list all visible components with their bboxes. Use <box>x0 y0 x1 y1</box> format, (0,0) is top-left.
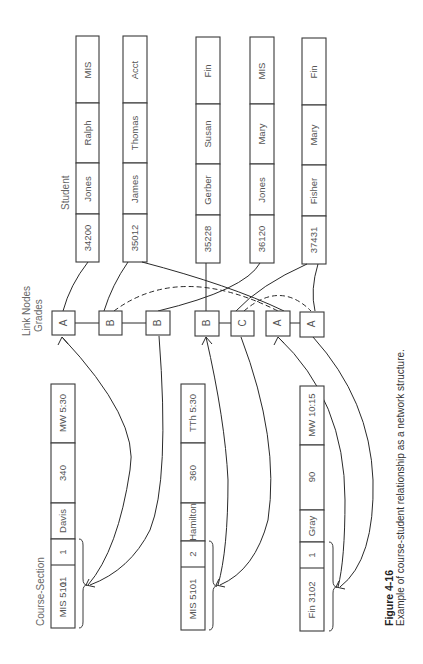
course-room: 90 <box>306 472 317 483</box>
student-record: MIS Ralph Jones 34200 <box>76 36 99 262</box>
student-link-connectors <box>63 262 318 311</box>
student-id: 35012 <box>129 225 140 251</box>
course-section-label: Course-Section <box>35 557 46 626</box>
course-bracket <box>209 541 217 630</box>
link-node: A <box>300 312 324 337</box>
arrowhead-icon <box>58 337 68 345</box>
student-id: 37431 <box>308 227 319 253</box>
grade-value: B <box>201 319 212 326</box>
network-structure-diagram: Student Link Nodes Grades Course-Section… <box>0 0 423 664</box>
course-link-curves <box>62 336 373 587</box>
course-code: Fin 3102 <box>306 582 317 619</box>
figure-caption: Example of course-student relationship a… <box>395 349 406 626</box>
student-major: MIS <box>82 62 93 79</box>
student-major: Acct <box>129 60 140 79</box>
student-record: Fin Susan Gerber 35228 <box>196 37 220 263</box>
student-id: 36120 <box>256 226 267 252</box>
student-first-name: Mary <box>256 123 267 144</box>
course-code: MIS 5101 <box>187 579 198 620</box>
student-record: Fin Mary Fisher 37431 <box>302 38 326 264</box>
course-section-number: 2 <box>187 551 198 556</box>
student-first-name: Mary <box>308 124 319 145</box>
student-id: 34200 <box>82 225 93 251</box>
link-node: B <box>195 311 219 336</box>
link-node: B <box>146 311 170 335</box>
grade-value: A <box>272 319 283 326</box>
course-section-number: 1 <box>57 549 68 554</box>
grade-value: B <box>152 319 163 326</box>
course-time: TTh 5:30 <box>187 394 198 432</box>
student-first-name: Thomas <box>129 116 140 151</box>
student-id: 35228 <box>202 226 213 252</box>
student-major: Fin <box>202 64 213 77</box>
figure-title: Figure 4-16 <box>383 570 395 626</box>
link-node: B <box>99 311 122 335</box>
grade-value: C <box>237 319 248 326</box>
course-instructor: Gray <box>306 515 317 536</box>
link-nodes-label: Link Nodes <box>21 286 32 336</box>
grades-label: Grades <box>33 299 44 332</box>
arrowhead-icon <box>336 581 345 589</box>
student-last-name: Fisher <box>308 178 319 204</box>
course-code: MIS 5101 <box>57 577 68 618</box>
student-last-name: Jones <box>82 176 93 202</box>
course-instructor: Davis <box>57 509 68 533</box>
arrowhead-icon <box>86 579 95 587</box>
student-record: Acct Thomas James 35012 <box>123 36 147 262</box>
grade-value: B <box>105 319 116 326</box>
student-last-name: Jones <box>256 177 267 203</box>
student-first-name: Ralph <box>82 121 93 146</box>
student-major: Fin <box>308 65 319 78</box>
course-room: 340 <box>57 465 68 481</box>
course-bracket <box>79 539 87 628</box>
student-major: MIS <box>256 63 267 80</box>
grade-value: A <box>58 319 69 326</box>
student-first-name: Susan <box>202 121 213 148</box>
link-node: A <box>52 311 75 335</box>
course-instructor: Hamilton <box>187 503 198 541</box>
link-node: C <box>231 311 254 336</box>
course-time: MW 5:30 <box>57 394 68 432</box>
arrowhead-icon <box>274 337 284 345</box>
course-time: MW 10:15 <box>306 393 317 436</box>
student-last-name: Gerber <box>202 175 213 205</box>
student-label: Student <box>60 175 71 210</box>
course-bracket <box>329 542 337 631</box>
student-record: MIS Mary Jones 36120 <box>250 37 274 263</box>
link-node: A <box>266 311 290 336</box>
grade-value: A <box>306 320 317 327</box>
student-last-name: James <box>129 175 140 203</box>
course-section-number: 1 <box>306 552 317 557</box>
course-room: 360 <box>187 465 198 481</box>
